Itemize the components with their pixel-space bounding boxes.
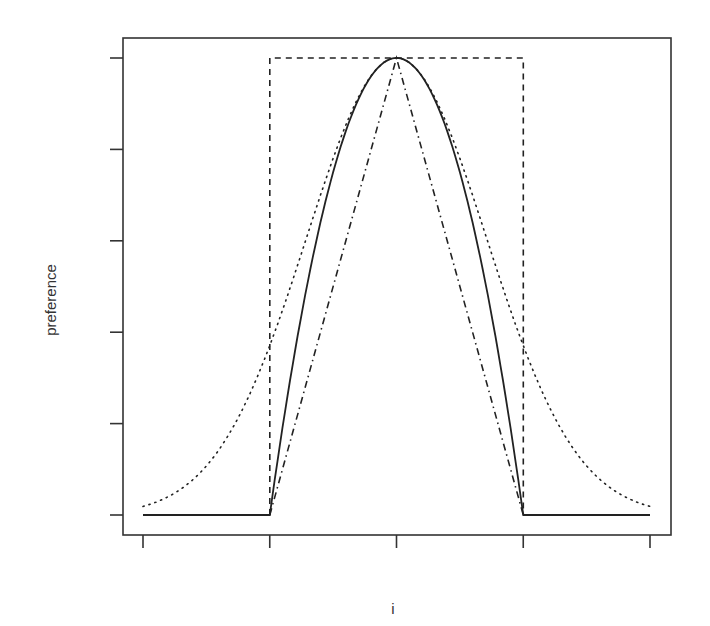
- series-lines: [143, 58, 650, 515]
- y-axis-ticks: [110, 58, 123, 515]
- plot-area: [0, 0, 710, 626]
- plot-frame: [123, 38, 671, 535]
- chart: preference i: [0, 0, 710, 626]
- frame-box: [123, 38, 671, 535]
- x-axis-ticks: [143, 535, 650, 548]
- series-parabolic: [143, 58, 650, 515]
- series-gaussian: [143, 58, 650, 506]
- y-axis-label: preference: [42, 260, 62, 340]
- x-axis-label: i: [383, 600, 403, 617]
